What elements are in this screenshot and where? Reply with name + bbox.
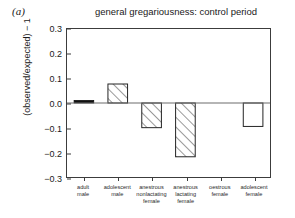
x-axis-label-anestrous-nonlactating-female: anestrousnonlactatingfemale <box>134 184 168 218</box>
x-axis-label-adolescent-male: adolescentmale <box>100 184 134 218</box>
bars-group <box>74 84 263 157</box>
x-axis-label-line: oestrous <box>204 184 236 191</box>
bar-chart-svg <box>67 29 270 177</box>
x-axis-label-line: male <box>67 191 99 198</box>
y-tick-label: 0.2 <box>22 49 67 59</box>
x-axis-label-line: adolescent <box>238 184 270 191</box>
x-tick-mark <box>118 177 119 181</box>
x-tick-mark <box>255 177 256 181</box>
x-tick-mark <box>152 177 153 181</box>
bar-adolescent-female <box>243 103 263 126</box>
y-tick-label: −0.3 <box>22 174 67 184</box>
y-tick-mark <box>67 179 71 180</box>
bar-anestrous-lactating-female <box>176 103 196 157</box>
x-axis-label-adult-male: adultmale <box>66 184 100 218</box>
x-tick-mark <box>84 177 85 181</box>
x-axis-label-line: male <box>101 191 133 198</box>
y-axis-label: (observed/expected) − 1 <box>22 0 32 142</box>
x-axis-label-oestrous-female: oestrousfemale <box>203 184 237 218</box>
x-axis-label-line: nonlactating <box>135 191 167 198</box>
chart-title: general gregariousness: control period <box>62 6 290 17</box>
x-axis-label-line: lactating <box>170 191 202 198</box>
y-tick-label: 0.3 <box>22 24 67 34</box>
y-tick-label: −0.1 <box>22 124 67 134</box>
x-axis-label-line: anestrous <box>135 184 167 191</box>
x-axis-label-line: female <box>204 191 236 198</box>
y-tick-mark <box>67 104 71 105</box>
figure-panel-a: (a) general gregariousness: control peri… <box>0 0 295 218</box>
x-axis-label-line: female <box>135 198 167 205</box>
x-axis-label-line: adult <box>67 184 99 191</box>
bar-adolescent-male <box>108 84 128 103</box>
x-axis-label-line: adolescent <box>101 184 133 191</box>
y-tick-label: −0.2 <box>22 149 67 159</box>
bar-anestrous-nonlactating-female <box>142 103 162 128</box>
y-tick-label: 0.0 <box>22 99 67 109</box>
y-tick-mark <box>67 154 71 155</box>
x-tick-mark <box>187 177 188 181</box>
y-tick-mark <box>67 79 71 80</box>
x-axis-label-line: female <box>170 198 202 205</box>
x-axis-label-line: anestrous <box>170 184 202 191</box>
y-tick-mark <box>67 54 71 55</box>
x-axis-labels: adultmaleadolescentmaleanestrousnonlacta… <box>66 184 271 218</box>
x-axis-label-line: female <box>238 191 270 198</box>
y-tick-mark <box>67 129 71 130</box>
x-axis-label-anestrous-lactating-female: anestrouslactatingfemale <box>169 184 203 218</box>
x-axis-label-adolescent-female: adolescentfemale <box>237 184 271 218</box>
y-tick-label: 0.1 <box>22 74 67 84</box>
plot-area: 0.30.20.10.0−0.1−0.2−0.3 <box>66 28 271 178</box>
y-tick-mark <box>67 29 71 30</box>
x-tick-mark <box>221 177 222 181</box>
